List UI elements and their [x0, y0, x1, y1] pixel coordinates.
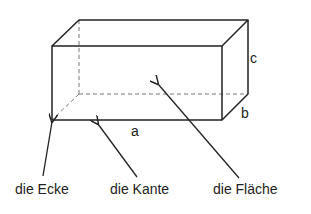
- label-corner: die Ecke: [15, 181, 69, 197]
- hidden-edge-depth: [52, 94, 79, 120]
- label-edge: die Kante: [110, 181, 169, 197]
- cuboid-diagram: a b c die Ecke die Kante die Fläche: [0, 0, 311, 214]
- visible-edges: [52, 20, 248, 120]
- label-face: die Fläche: [213, 181, 278, 197]
- top-face-edges: [52, 20, 248, 46]
- front-face: [52, 46, 222, 120]
- dimension-label-a: a: [131, 123, 139, 139]
- hidden-edges: [52, 20, 248, 120]
- dimension-label-b: b: [241, 105, 249, 121]
- pointer-arrows: [43, 84, 239, 178]
- arrow-face: [158, 84, 239, 178]
- arrow-corner: [43, 122, 52, 176]
- dimension-label-c: c: [250, 50, 257, 66]
